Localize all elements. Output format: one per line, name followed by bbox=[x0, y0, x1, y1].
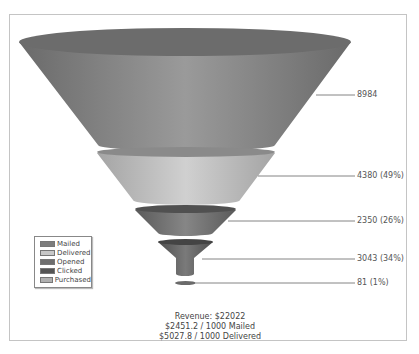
legend-label: Opened bbox=[57, 258, 84, 266]
funnel-segment-purchased[interactable] bbox=[175, 281, 196, 285]
legend-item-purchased[interactable]: Purchased bbox=[40, 275, 91, 284]
revenue-per-delivered: $5027.8 / 1000 Delivered bbox=[110, 332, 310, 342]
revenue-total: Revenue: $22022 bbox=[110, 312, 310, 322]
legend-label: Purchased bbox=[55, 276, 91, 284]
funnel-segment-delivered[interactable] bbox=[97, 147, 275, 205]
funnel-segment-mailed[interactable] bbox=[19, 28, 351, 151]
value-label-opened: 2350 (26%) bbox=[357, 216, 404, 226]
value-label-mailed: 8984 bbox=[357, 90, 377, 100]
legend-item-mailed[interactable]: Mailed bbox=[40, 239, 91, 248]
value-label-delivered: 4380 (49%) bbox=[357, 171, 404, 181]
legend-swatch-mailed bbox=[40, 241, 55, 247]
legend-label: Clicked bbox=[57, 267, 82, 275]
legend-swatch-delivered bbox=[40, 250, 55, 256]
revenue-per-mailed: $2451.2 / 1000 Mailed bbox=[110, 322, 310, 332]
value-label-clicked: 3043 (34%) bbox=[357, 254, 404, 264]
legend-label: Delivered bbox=[57, 249, 91, 257]
legend-item-opened[interactable]: Opened bbox=[40, 257, 91, 266]
legend-item-clicked[interactable]: Clicked bbox=[40, 266, 91, 275]
value-label-purchased: 81 (1%) bbox=[357, 278, 389, 288]
legend-swatch-purchased bbox=[40, 277, 53, 283]
legend-swatch-clicked bbox=[40, 268, 55, 274]
funnel-segment-clicked[interactable] bbox=[158, 239, 213, 276]
chart-legend: Mailed Delivered Opened Clicked Purchase… bbox=[34, 236, 92, 288]
legend-item-delivered[interactable]: Delivered bbox=[40, 248, 91, 257]
funnel-segment-opened[interactable] bbox=[135, 205, 236, 236]
legend-swatch-opened bbox=[40, 259, 55, 265]
legend-label: Mailed bbox=[57, 240, 80, 248]
